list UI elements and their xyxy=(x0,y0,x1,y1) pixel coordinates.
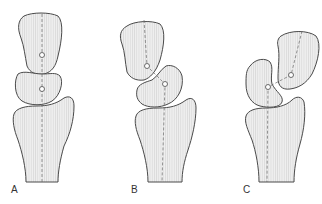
panel-a-pivot-distal xyxy=(40,53,45,58)
panel-c-label: C xyxy=(243,184,250,195)
panel-c-pivot-distal xyxy=(289,73,294,78)
panel-c-displaced-bone xyxy=(278,32,319,90)
panel-a: A xyxy=(11,13,74,195)
panel-b-distal-bone xyxy=(120,22,163,81)
panel-a-label: A xyxy=(11,184,18,195)
panel-a-distal-bone xyxy=(19,13,62,74)
panel-c: C xyxy=(243,31,319,195)
panel-b: B xyxy=(120,20,196,195)
diagram-canvas: A B C xyxy=(0,0,322,204)
panel-a-proximal-bone xyxy=(13,97,74,182)
panel-c-pivot-middle xyxy=(266,85,271,90)
panel-b-proximal-bone xyxy=(135,98,196,182)
panel-c-middle-bone xyxy=(246,59,282,107)
panel-b-pivot-distal xyxy=(145,64,150,69)
panel-c-proximal-bone xyxy=(245,97,304,182)
panel-a-pivot-middle xyxy=(40,87,45,92)
panel-b-label: B xyxy=(131,184,138,195)
panel-b-pivot-middle xyxy=(163,82,168,87)
panel-a-middle-bone xyxy=(15,72,61,105)
